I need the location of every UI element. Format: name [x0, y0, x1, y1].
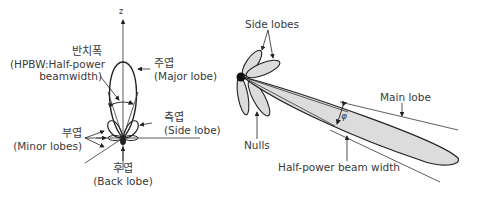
minor-lobes-label: 부엽 (Minor lobes): [8, 128, 82, 152]
main-lobe-label: Main lobe: [380, 91, 431, 103]
z-axis-label: z: [119, 6, 123, 18]
back-lobe-label: 후엽 (Back lobe): [93, 163, 153, 187]
hpbw-label-right: Half-power beam width: [278, 161, 400, 173]
back-lobe: [120, 137, 126, 145]
lobe-pattern-right: [235, 30, 459, 182]
polar-pattern-left: [85, 20, 200, 170]
hpbw-label-left: 반치폭 (HPBW:Half-power beamwidth): [10, 46, 102, 82]
side-lobes-label: Side lobes: [245, 18, 299, 30]
nulls-label: Nulls: [244, 139, 270, 151]
antenna-origin: [237, 73, 246, 82]
major-lobe-label: 주엽 (Major lobe): [154, 58, 217, 82]
side-lobe-label: 측엽 (Side lobe): [164, 112, 221, 136]
phi-symbol: φ: [341, 110, 347, 122]
